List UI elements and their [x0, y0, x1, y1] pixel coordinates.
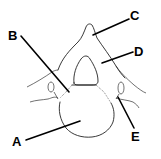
leader-D — [102, 52, 133, 63]
label-B: B — [8, 28, 17, 43]
pedicle-left-dotted — [60, 85, 72, 98]
leader-B — [21, 36, 69, 92]
vertebral-foramen — [74, 56, 98, 85]
left-facet-connector — [54, 92, 58, 99]
label-D: D — [134, 44, 143, 59]
vertebral-body-outline — [59, 102, 114, 137]
right-transverse-process — [116, 66, 146, 93]
vertebral-arch-outline — [58, 24, 125, 78]
label-C: C — [130, 8, 140, 23]
left-nerve-line — [30, 97, 58, 102]
leader-A — [26, 121, 80, 140]
left-facet — [48, 82, 54, 92]
leader-C — [93, 19, 129, 35]
label-E: E — [131, 129, 140, 144]
vertebra-diagram: A B C D E — [0, 0, 161, 159]
pedicle-right-dotted — [96, 85, 111, 103]
label-A: A — [12, 134, 22, 149]
right-facet — [118, 82, 124, 94]
